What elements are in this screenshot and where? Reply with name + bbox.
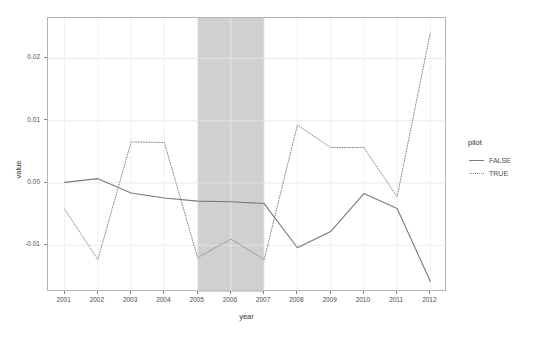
- y-axis-ticks: 0.020.010.00-0.01: [0, 0, 47, 339]
- x-tick-label: 2011: [389, 296, 403, 303]
- x-tick-mark: [97, 291, 98, 294]
- x-tick-label: 2009: [322, 296, 336, 303]
- x-tick-label: 2002: [90, 296, 104, 303]
- x-tick-mark: [429, 291, 430, 294]
- x-tick-mark: [330, 291, 331, 294]
- legend-key-dotted-line-icon: [468, 168, 485, 179]
- legend-item-false[interactable]: FALSE: [468, 154, 530, 167]
- x-tick-label: 2001: [56, 296, 70, 303]
- plot-area: [48, 18, 447, 292]
- legend: pilot FALSETRUE: [468, 138, 530, 180]
- x-tick-label: 2007: [256, 296, 270, 303]
- x-tick-label: 2004: [156, 296, 170, 303]
- y-tick-label: 0.02: [27, 53, 40, 60]
- x-tick-label: 2006: [223, 296, 237, 303]
- x-tick-label: 2008: [289, 296, 303, 303]
- legend-item-true[interactable]: TRUE: [468, 167, 530, 180]
- legend-key-solid-line-icon: [468, 155, 485, 166]
- x-tick-mark: [296, 291, 297, 294]
- x-tick-mark: [363, 291, 364, 294]
- x-tick-mark: [130, 291, 131, 294]
- y-tick-label: 0.00: [27, 178, 40, 185]
- x-tick-mark: [263, 291, 264, 294]
- x-tick-mark: [197, 291, 198, 294]
- x-tick-label: 2012: [422, 296, 436, 303]
- plot-panel: [47, 17, 446, 291]
- x-tick-mark: [64, 291, 65, 294]
- legend-label: TRUE: [489, 170, 508, 177]
- x-tick-label: 2010: [356, 296, 370, 303]
- x-tick-mark: [230, 291, 231, 294]
- x-tick-label: 2005: [189, 296, 203, 303]
- x-axis-title: year: [0, 312, 493, 321]
- legend-items: FALSETRUE: [468, 154, 530, 180]
- x-tick-mark: [396, 291, 397, 294]
- y-tick-label: -0.01: [25, 240, 40, 247]
- chart-root: value 0.020.010.00-0.01 2001200220032004…: [0, 0, 533, 339]
- y-tick-label: 0.01: [27, 116, 40, 123]
- x-tick-label: 2003: [123, 296, 137, 303]
- x-tick-mark: [163, 291, 164, 294]
- legend-label: FALSE: [489, 157, 511, 164]
- legend-title: pilot: [468, 138, 530, 147]
